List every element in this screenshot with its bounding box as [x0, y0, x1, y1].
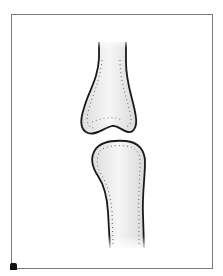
upper-bone — [81, 38, 136, 134]
bone-illustration — [0, 0, 223, 276]
corner-marker — [10, 263, 17, 270]
lower-bone — [92, 141, 148, 250]
